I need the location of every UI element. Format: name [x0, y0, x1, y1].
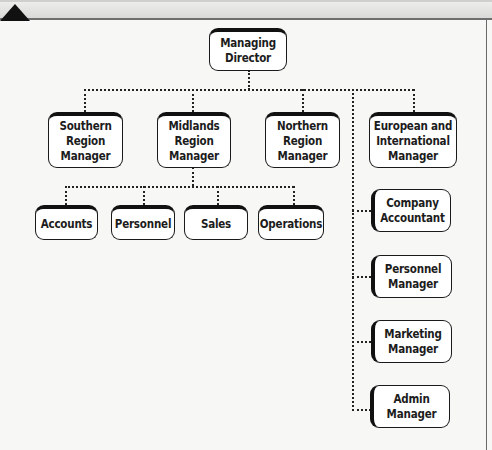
node-label: Company Accountant: [380, 196, 444, 226]
page-header-bar: [0, 0, 492, 20]
connector: [413, 89, 415, 112]
node-label: Managing Director: [220, 36, 276, 66]
node-label: European and International Manager: [374, 119, 452, 164]
node-marketing-manager: Marketing Manager: [371, 320, 452, 363]
node-label: Sales: [201, 217, 231, 232]
triangle-marker-icon: [0, 4, 30, 21]
connector: [352, 409, 371, 411]
node-label: Admin Manager: [387, 392, 437, 422]
node-personnel-manager: Personnel Manager: [371, 255, 452, 298]
node-label: Accounts: [41, 217, 93, 232]
node-company-accountant: Company Accountant: [371, 189, 451, 232]
node-southern-region-manager: Southern Region Manager: [48, 112, 123, 168]
node-label: Southern Region Manager: [59, 119, 111, 164]
node-managing-director: Managing Director: [209, 28, 287, 71]
connector: [65, 186, 294, 188]
node-admin-manager: Admin Manager: [370, 385, 450, 428]
node-label: Midlands Region Manager: [168, 119, 219, 164]
connector: [192, 89, 194, 112]
node-personnel: Personnel: [111, 205, 175, 240]
connector: [143, 186, 145, 205]
connector: [65, 186, 67, 205]
connector: [302, 89, 304, 112]
node-label: Marketing Manager: [384, 327, 441, 357]
connector: [192, 167, 194, 186]
node-northern-region-manager: Northern Region Manager: [265, 112, 340, 168]
node-label: Personnel Manager: [385, 262, 441, 292]
node-label: Operations: [260, 217, 322, 232]
node-label: Northern Region Manager: [277, 119, 328, 164]
node-sales: Sales: [184, 205, 248, 240]
connector: [217, 186, 219, 205]
connector: [352, 89, 354, 411]
connector: [248, 70, 250, 90]
connector: [293, 186, 295, 205]
connector: [352, 341, 371, 343]
node-operations: Operations: [258, 205, 324, 240]
connector: [352, 210, 371, 212]
connector: [352, 276, 371, 278]
connector: [84, 89, 414, 91]
node-accounts: Accounts: [35, 205, 98, 240]
node-label: Personnel: [115, 217, 171, 232]
node-european-international-manager: European and International Manager: [369, 112, 457, 168]
node-midlands-region-manager: Midlands Region Manager: [157, 112, 231, 168]
connector: [84, 89, 86, 112]
